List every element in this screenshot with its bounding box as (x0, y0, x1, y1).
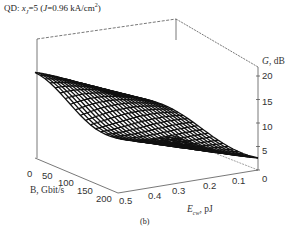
z-axis-label: G, dB (262, 56, 285, 66)
z-tick: 10 (262, 121, 273, 132)
z-tick: 20 (262, 70, 273, 81)
surface-plot (0, 0, 300, 237)
figure-caption: (b) (140, 217, 149, 226)
y-tick: 0.2 (203, 180, 216, 191)
x-tick: 150 (77, 185, 93, 196)
y-tick: 0.4 (148, 190, 161, 201)
x-axis-label: B, Gbit/s (30, 185, 64, 195)
z-tick: 0 (262, 173, 267, 184)
y-tick: 0.3 (172, 185, 185, 196)
figure: QD: xJ=5 (J=0.96 kA/cm2) G, dB 20 15 10 … (0, 0, 300, 237)
y-axis-label: Ecw, pJ (187, 204, 213, 216)
x-tick: 200 (96, 193, 112, 204)
y-tick: 0.1 (232, 175, 245, 186)
x-tick: 0 (27, 168, 32, 179)
z-tick: 15 (262, 96, 273, 107)
surface-mesh (35, 72, 258, 158)
y-tick: 0.5 (119, 195, 132, 206)
x-tick: 50 (42, 170, 53, 181)
z-tick: 5 (262, 145, 267, 156)
